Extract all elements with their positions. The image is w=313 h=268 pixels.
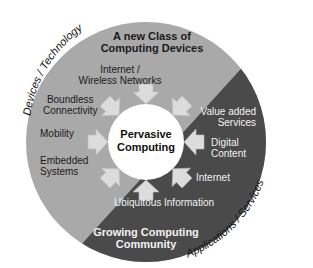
item-mobility: Mobility [40, 128, 74, 139]
item-digital-content: Digital Content [211, 137, 246, 159]
item-internet: Internet [196, 172, 230, 183]
center-title: Pervasive Computing [113, 128, 179, 154]
item-embedded-systems: Embedded Systems [40, 155, 88, 177]
item-value-added-services: Value added Services [196, 106, 256, 128]
applications-segment-title: Growing Computing Community [86, 226, 206, 250]
item-ubiquitous-information: Ubiquitous Information [114, 197, 214, 208]
devices-segment-title: A new Class of Computing Devices [97, 30, 207, 54]
item-internet-wireless: Internet / Wireless Networks [72, 64, 168, 86]
item-boundless-connectivity: Boundless Connectivity [43, 94, 97, 116]
